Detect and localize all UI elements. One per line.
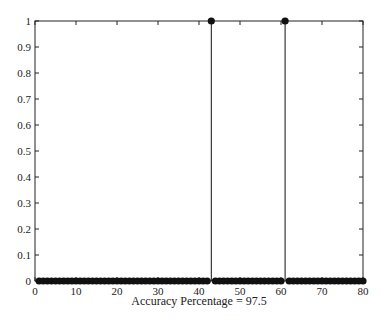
- x-tick-label: 60: [276, 285, 288, 297]
- data-series: [36, 17, 367, 284]
- stem-marker: [204, 277, 211, 284]
- y-tick-label: 1: [26, 15, 32, 27]
- stem-marker: [208, 17, 215, 24]
- stem-marker: [359, 277, 366, 284]
- y-tick-label: 0.2: [17, 223, 31, 235]
- y-tick-label: 0.4: [17, 171, 31, 183]
- stem-marker: [277, 277, 284, 284]
- y-tick-label: 0: [26, 275, 32, 287]
- stem-chart: 00.10.20.30.40.50.60.70.80.91 0102030405…: [0, 0, 382, 328]
- y-tick-label: 0.7: [17, 93, 31, 105]
- y-tick-label: 0.6: [17, 119, 31, 131]
- x-tick-label: 80: [358, 285, 370, 297]
- x-axis: 01020304050607080: [32, 21, 369, 297]
- stem-marker: [282, 17, 289, 24]
- y-tick-label: 0.3: [17, 197, 31, 209]
- x-axis-label: Accuracy Percentage = 97.5: [131, 294, 266, 308]
- y-tick-label: 0.8: [17, 67, 31, 79]
- y-axis: 00.10.20.30.40.50.60.70.80.91: [17, 15, 363, 287]
- y-tick-label: 0.9: [17, 41, 31, 53]
- y-tick-label: 0.1: [17, 249, 31, 261]
- y-tick-label: 0.5: [17, 145, 31, 157]
- x-tick-label: 0: [32, 285, 38, 297]
- x-tick-label: 20: [112, 285, 124, 297]
- x-tick-label: 70: [317, 285, 329, 297]
- plot-area: [35, 21, 363, 281]
- x-tick-label: 10: [71, 285, 83, 297]
